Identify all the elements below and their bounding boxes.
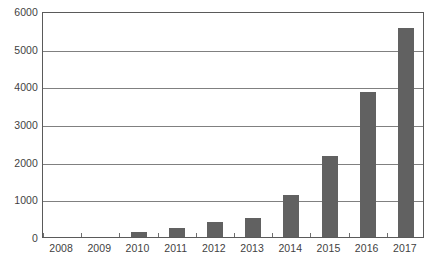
bar <box>398 28 414 237</box>
x-tick-mark <box>158 233 159 237</box>
x-tick-label: 2016 <box>355 243 379 254</box>
x-tick-label: 2014 <box>278 243 302 254</box>
y-tick-label: 5000 <box>2 44 38 55</box>
bar <box>360 92 376 237</box>
y-tick-label: 6000 <box>2 7 38 18</box>
y-tick-label: 0 <box>2 233 38 244</box>
bar <box>322 156 338 237</box>
x-tick-label: 2010 <box>126 243 150 254</box>
x-tick-label: 2012 <box>202 243 226 254</box>
bar <box>283 195 299 237</box>
x-tick-mark <box>196 233 197 237</box>
x-tick-label: 2017 <box>393 243 417 254</box>
x-tick-label: 2013 <box>240 243 264 254</box>
x-tick-label: 2015 <box>317 243 341 254</box>
bar <box>169 228 185 237</box>
x-tick-label: 2009 <box>87 243 111 254</box>
x-tick-mark <box>43 233 44 237</box>
x-tick-mark <box>119 233 120 237</box>
x-tick-mark <box>272 233 273 237</box>
x-tick-label: 2011 <box>164 243 187 254</box>
bar <box>207 222 223 237</box>
x-tick-mark <box>387 233 388 237</box>
bar <box>245 218 261 237</box>
bar-chart: 0100020003000400050006000 20082009201020… <box>0 0 440 271</box>
x-tick-mark <box>349 233 350 237</box>
y-tick-label: 3000 <box>2 120 38 131</box>
x-tick-mark <box>310 233 311 237</box>
x-tick-mark <box>81 233 82 237</box>
gridline <box>43 88 423 89</box>
y-axis-tick-labels: 0100020003000400050006000 <box>0 0 38 271</box>
x-tick-label: 2008 <box>49 243 73 254</box>
plot-area <box>42 12 424 238</box>
y-tick-label: 4000 <box>2 82 38 93</box>
y-tick-label: 2000 <box>2 157 38 168</box>
y-tick-label: 1000 <box>2 195 38 206</box>
gridline <box>43 51 423 52</box>
bar <box>131 232 147 237</box>
x-tick-mark <box>234 233 235 237</box>
x-axis-tick-labels: 2008200920102011201220132014201520162017 <box>42 243 424 263</box>
